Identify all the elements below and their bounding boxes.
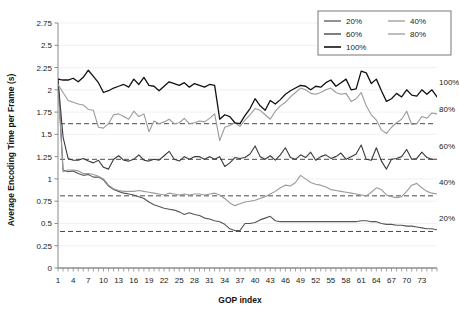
x-tick-label: 73	[417, 276, 426, 285]
y-tick-label: 2	[48, 86, 53, 95]
annotation-60: 60%	[439, 142, 455, 151]
x-tick-label: 46	[281, 276, 290, 285]
annotation-40: 40%	[439, 178, 455, 187]
legend-label-100[interactable]: 100%	[346, 43, 366, 52]
y-axis-label: Average Encoding Time per Frame (s)	[6, 74, 16, 227]
x-axis-label: GOP index	[218, 295, 262, 305]
y-tick-label: 0.25	[36, 242, 52, 251]
x-tick-label: 55	[326, 276, 335, 285]
x-tick-label: 34	[220, 276, 229, 285]
y-tick-label: 2.5	[41, 41, 53, 50]
annotation-20: 20%	[439, 214, 455, 223]
annotation-80: 80%	[439, 105, 455, 114]
x-tick-label: 13	[114, 276, 123, 285]
chart-container: 00.250.50.7511.251.51.7522.252.52.75 147…	[0, 0, 459, 310]
legend-box	[318, 11, 451, 55]
legend-label-20[interactable]: 20%	[346, 17, 362, 26]
x-tick-label: 28	[190, 276, 199, 285]
x-tick-label: 31	[205, 276, 214, 285]
y-tick-label: 0.75	[36, 197, 52, 206]
x-tick-label: 19	[145, 276, 154, 285]
x-tick-label: 37	[235, 276, 244, 285]
y-tick-label: 1	[48, 175, 53, 184]
x-tick-label: 61	[357, 276, 366, 285]
legend-label-40[interactable]: 40%	[410, 17, 426, 26]
legend: 20%40%60%80%100%	[318, 11, 451, 55]
x-tick-label: 25	[175, 276, 184, 285]
x-tick-label: 70	[402, 276, 411, 285]
y-tick-label: 0.5	[41, 219, 53, 228]
x-tick-label: 10	[99, 276, 108, 285]
y-tick-label: 1.5	[41, 130, 53, 139]
x-tick-label: 43	[266, 276, 275, 285]
x-tick-label: 40	[251, 276, 260, 285]
x-tick-label: 1	[56, 276, 61, 285]
annotation-100: 100%	[439, 78, 459, 87]
x-tick-label: 49	[296, 276, 305, 285]
y-tick-label: 1.25	[36, 153, 52, 162]
y-tick-label: 2.75	[36, 19, 52, 28]
y-tick-label: 2.25	[36, 64, 52, 73]
x-tick-label: 58	[342, 276, 351, 285]
x-tick-label: 4	[71, 276, 76, 285]
y-tick-label: 1.75	[36, 108, 52, 117]
encoding-time-line-chart: 00.250.50.7511.251.51.7522.252.52.75 147…	[0, 0, 459, 310]
x-tick-label: 16	[129, 276, 138, 285]
x-tick-label: 64	[372, 276, 381, 285]
x-tick-label: 67	[387, 276, 396, 285]
y-tick-label: 0	[48, 264, 53, 273]
x-tick-label: 22	[160, 276, 169, 285]
x-tick-label: 7	[86, 276, 91, 285]
legend-label-60[interactable]: 60%	[346, 30, 362, 39]
x-tick-label: 52	[311, 276, 320, 285]
legend-label-80[interactable]: 80%	[410, 30, 426, 39]
